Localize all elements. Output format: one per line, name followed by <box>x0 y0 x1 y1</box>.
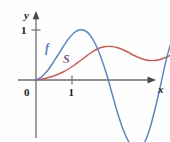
series-curve-f <box>36 29 170 142</box>
x-axis-arrowhead <box>148 76 157 83</box>
y-axis-label: y <box>22 9 29 21</box>
y-axis-tick-label-1: 1 <box>21 24 27 36</box>
curve-label-f: f <box>45 41 50 55</box>
curve-label-s: S <box>63 52 70 66</box>
origin-label: 0 <box>24 86 30 98</box>
figure-container: y x 1 1 0 f S <box>0 0 170 142</box>
y-axis-arrowhead <box>33 11 40 19</box>
chart-canvas: y x 1 1 0 f S <box>0 0 170 142</box>
x-axis-tick-label-1: 1 <box>69 86 75 98</box>
x-axis-label: x <box>157 83 164 95</box>
